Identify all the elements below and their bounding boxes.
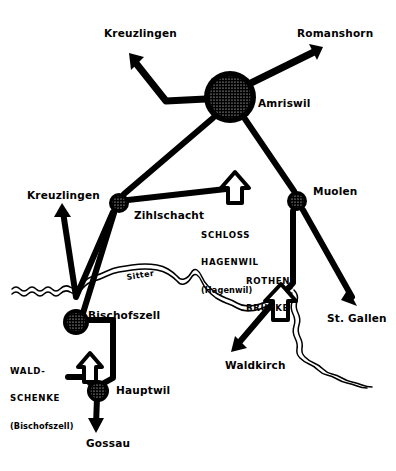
route-map: Kreuzlingen Romanshorn Amriswil Kreuzlin… bbox=[0, 0, 396, 471]
node-zihlschacht[interactable] bbox=[109, 193, 129, 213]
landmark-line2: SCHENKE bbox=[10, 394, 73, 403]
route-zihlschacht-hagenwil bbox=[128, 189, 226, 200]
route-amriswil-kreuzlingen-north bbox=[135, 62, 206, 101]
node-muolen[interactable] bbox=[287, 191, 307, 211]
landmark-line1: WALD- bbox=[10, 367, 73, 376]
node-label-zihlschacht: Zihlschacht bbox=[134, 210, 204, 221]
landmark-line1: SCHLOSS bbox=[201, 231, 259, 240]
destination-label-kreuzlingen-north: Kreuzlingen bbox=[104, 28, 177, 39]
landmark-label-waldschenke: WALD- SCHENKE (Bischofszell) bbox=[10, 348, 73, 450]
arrowhead-gossau bbox=[88, 418, 104, 433]
landmark-line1: ROTHEN- bbox=[246, 277, 295, 286]
route-muolen-st-gallen bbox=[303, 210, 352, 297]
landmark-label-rothenbruecke: ROTHEN- BRÜCKE bbox=[246, 258, 295, 332]
route-amriswil-romanshorn bbox=[251, 51, 316, 83]
destination-label-kreuzlingen-west: Kreuzlingen bbox=[27, 190, 100, 201]
river-tributary-south bbox=[289, 290, 372, 388]
landmark-line3: (Bischofszell) bbox=[10, 422, 73, 431]
route-amriswil-muolen bbox=[245, 119, 294, 191]
node-amriswil[interactable] bbox=[204, 71, 256, 123]
route-amriswil-zihlschacht bbox=[124, 118, 213, 194]
node-bischofszell[interactable] bbox=[63, 309, 89, 335]
node-label-bischofszell: Bischofszell bbox=[88, 310, 160, 321]
river-tributary-bank-b bbox=[294, 290, 372, 387]
node-label-muolen: Muolen bbox=[313, 186, 358, 197]
destination-label-waldkirch: Waldkirch bbox=[225, 360, 286, 371]
destination-label-romanshorn: Romanshorn bbox=[297, 28, 373, 39]
destination-label-st-gallen: St. Gallen bbox=[327, 313, 387, 324]
up-arrow-icon-schloss-hagenwil[interactable] bbox=[221, 172, 249, 203]
node-label-hauptwil: Hauptwil bbox=[116, 385, 170, 396]
destination-label-gossau: Gossau bbox=[86, 438, 130, 449]
landmark-line2: BRÜCKE bbox=[246, 304, 295, 313]
arrowhead-kreuzlingen-west bbox=[54, 203, 71, 217]
node-label-amriswil: Amriswil bbox=[258, 98, 311, 109]
